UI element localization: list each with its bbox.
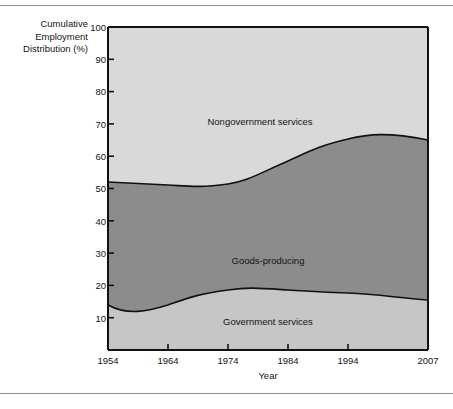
- series-label-nongovernment-services: Nongovernment services: [180, 116, 340, 127]
- x-tick-label-1974: 1974: [208, 355, 248, 366]
- x-tick-label-1994: 1994: [328, 355, 368, 366]
- x-tick-label-1984: 1984: [268, 355, 308, 366]
- x-tick-label-2007: 2007: [408, 355, 448, 366]
- area-chart-plot: [0, 0, 453, 409]
- series-label-goods-producing: Goods-producing: [208, 255, 328, 266]
- x-tick-label-1964: 1964: [148, 355, 188, 366]
- figure-container: Cumulative Employment Distribution (%) 1…: [0, 0, 453, 409]
- x-tick-label-1954: 1954: [88, 355, 128, 366]
- series-label-government-services: Government services: [208, 316, 328, 327]
- x-axis-title: Year: [238, 370, 298, 381]
